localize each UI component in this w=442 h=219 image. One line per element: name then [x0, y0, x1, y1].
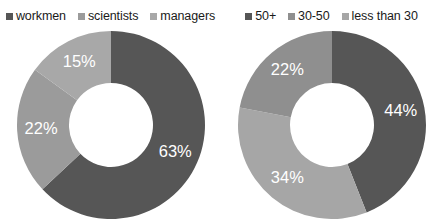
- legend-swatch-icon: [150, 13, 157, 20]
- legend-item-50-plus[interactable]: 50+: [245, 9, 276, 23]
- slice-percent-label: 15%: [62, 52, 95, 70]
- legend-item-30-50[interactable]: 30-50: [288, 9, 329, 23]
- chart-panel-occupation: workmen scientists managers 63%22%15%: [0, 0, 221, 219]
- legend-label: less than 30: [352, 9, 418, 23]
- legend-swatch-icon: [342, 13, 349, 20]
- legend-label: managers: [160, 9, 215, 23]
- slice-percent-label: 34%: [270, 168, 303, 186]
- legend-swatch-icon: [6, 13, 13, 20]
- legend-occupation: workmen scientists managers: [0, 9, 221, 23]
- slice-percent-label: 22%: [24, 119, 57, 137]
- chart-panel-age: 50+ 30-50 less than 30 44%34%22%: [221, 0, 442, 219]
- legend-item-workmen[interactable]: workmen: [6, 9, 66, 23]
- slice-percent-label: 63%: [158, 142, 191, 160]
- legend-item-managers[interactable]: managers: [150, 9, 215, 23]
- slice-percent-label: 44%: [384, 101, 417, 119]
- donut-slice[interactable]: [238, 107, 367, 219]
- legend-swatch-icon: [245, 13, 252, 20]
- legend-swatch-icon: [288, 13, 295, 20]
- legend-swatch-icon: [78, 13, 85, 20]
- donut-age: 44%34%22%: [221, 31, 442, 219]
- legend-label: workmen: [16, 9, 66, 23]
- slice-percent-label: 22%: [270, 60, 303, 78]
- donut-occupation: 63%22%15%: [0, 31, 221, 219]
- legend-age: 50+ 30-50 less than 30: [221, 9, 442, 23]
- legend-label: 30-50: [298, 9, 329, 23]
- donut-age-svg: 44%34%22%: [234, 31, 430, 219]
- donut-occupation-svg: 63%22%15%: [13, 31, 209, 219]
- legend-item-scientists[interactable]: scientists: [78, 9, 138, 23]
- legend-label: scientists: [88, 9, 138, 23]
- donut-chart-figure: workmen scientists managers 63%22%15% 50…: [0, 0, 442, 219]
- legend-item-less-than-30[interactable]: less than 30: [342, 9, 418, 23]
- donut-slices: [238, 31, 426, 219]
- legend-label: 50+: [255, 9, 276, 23]
